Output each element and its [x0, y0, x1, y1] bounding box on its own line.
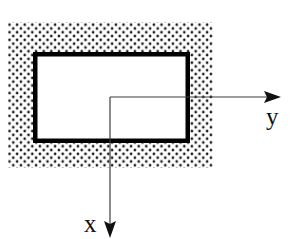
- y-axis-label: y: [266, 104, 279, 129]
- diagram-canvas: [0, 0, 290, 239]
- technical-diagram: y x: [0, 0, 290, 239]
- x-axis-label: x: [84, 211, 97, 236]
